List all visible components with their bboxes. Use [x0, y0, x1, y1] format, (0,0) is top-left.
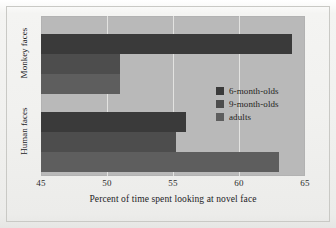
- bar: [41, 74, 120, 94]
- bar: [41, 132, 176, 152]
- legend-label: adults: [229, 112, 251, 122]
- x-tick-label: 55: [153, 178, 193, 188]
- bar: [41, 54, 120, 74]
- legend-label: 9-month-olds: [229, 99, 279, 109]
- bar: [41, 112, 186, 132]
- legend-item: 6-month-olds: [216, 84, 279, 97]
- legend-swatch-icon: [216, 100, 224, 108]
- bar: [41, 34, 292, 54]
- legend-label: 6-month-olds: [229, 86, 279, 96]
- legend-swatch-icon: [216, 87, 224, 95]
- x-tick-label: 65: [285, 178, 325, 188]
- x-axis-title: Percent of time spent looking at novel f…: [41, 194, 305, 204]
- category-label-human-faces: Human faces: [19, 71, 29, 191]
- legend-swatch-icon: [216, 113, 224, 121]
- x-tick-label: 50: [87, 178, 127, 188]
- x-tick-label: 60: [219, 178, 259, 188]
- legend: 6-month-olds 9-month-olds adults: [216, 84, 279, 123]
- legend-item: adults: [216, 110, 279, 123]
- legend-item: 9-month-olds: [216, 97, 279, 110]
- chart-figure: 45 50 55 60 65 Percent of time spent loo…: [0, 0, 336, 228]
- bar: [41, 152, 279, 172]
